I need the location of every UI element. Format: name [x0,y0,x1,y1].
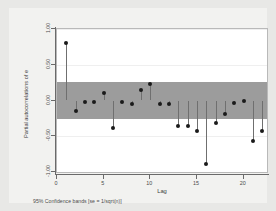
screenshot-root: 1.000.500.00-0.50-1.00 05101520 Partial … [0,0,276,211]
data-point [186,124,190,128]
x-tick-mark [243,175,244,179]
gridline [57,65,267,66]
data-point [111,126,115,130]
y-tick-label: -0.50 [45,126,51,144]
x-tick-mark [196,175,197,179]
y-tick-mark [51,171,55,172]
plot-area [56,28,268,173]
stem-line [206,101,207,165]
stem-line [113,101,114,129]
data-point [195,129,199,133]
data-point [242,99,246,103]
x-tick-label: 10 [146,180,152,186]
y-tick-label: 1.00 [45,19,51,37]
stem-line [216,101,217,123]
x-axis-line [55,174,269,175]
data-point [251,139,255,143]
gridline [57,29,267,30]
stem-line [188,101,189,126]
stem-line [262,101,263,132]
x-tick-mark [149,175,150,179]
y-tick-mark [51,28,55,29]
y-tick-label: 0.50 [45,55,51,73]
x-tick-label: 20 [240,180,246,186]
y-tick-label: -1.00 [45,162,51,180]
confidence-band [57,82,267,119]
chart-caption: 95% Confidence bands [se = 1/sqrt(n)] [33,198,122,204]
x-tick-mark [56,175,57,179]
data-point [83,100,87,104]
stem-line [197,101,198,132]
data-point [74,109,78,113]
data-point [176,124,180,128]
x-tick-label: 0 [55,180,58,186]
x-tick-label: 15 [193,180,199,186]
data-point [102,91,106,95]
y-axis-title: Partial autocorrelations of e [23,49,29,159]
data-point [64,41,68,45]
data-point [204,162,208,166]
y-axis-line [55,27,56,175]
gridline [57,136,267,137]
data-point [158,102,162,106]
y-tick-label: 0.00 [45,91,51,109]
gridline [57,172,267,173]
y-tick-mark [51,100,55,101]
stem-line [178,101,179,127]
data-point [214,121,218,125]
stem-line [66,43,67,100]
y-tick-mark [51,64,55,65]
graph-region: 1.000.500.00-0.50-1.00 05101520 Partial … [9,8,267,203]
stem-line [253,101,254,141]
stem-line [150,84,151,100]
data-point [260,129,264,133]
x-tick-mark [103,175,104,179]
x-tick-label: 5 [101,180,104,186]
x-axis-title: Lag [56,188,268,194]
data-point [130,102,134,106]
y-tick-mark [51,135,55,136]
